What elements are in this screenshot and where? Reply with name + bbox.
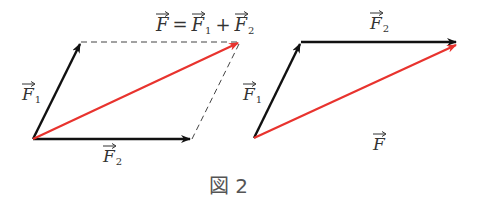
vector-f1-symbol: F1 [192,16,212,36]
label-f2-right: F2 [370,15,389,34]
plus-sign: + [215,14,230,35]
dashed-right-edge [192,42,240,139]
resultant-f-arrow [254,45,456,138]
figure-caption: 図 2 [209,170,248,199]
resultant-equation: F=F1+F2 [156,16,254,36]
label-f1-left: F1 [22,86,41,105]
resultant-f-arrow [33,43,238,139]
equals-sign: = [173,14,188,35]
label-f1-right: F1 [243,86,262,105]
label-f2-left: F2 [103,148,122,167]
triangle-diagram [254,42,456,138]
vector-f-symbol: F [156,16,169,34]
vector-f2-symbol: F2 [235,16,255,36]
parallelogram-diagram [33,42,240,139]
label-f-right: F [373,136,385,153]
